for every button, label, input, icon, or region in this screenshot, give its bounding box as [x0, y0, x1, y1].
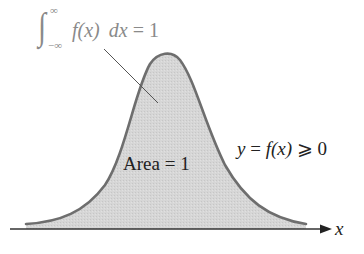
differential: dx	[109, 19, 128, 41]
integrand: f(x) dx = 1	[72, 18, 159, 42]
curve-label-eq: =	[250, 138, 261, 159]
integral-upper-limit: ∞	[50, 4, 58, 16]
integrand-argument: (x)	[78, 19, 100, 41]
curve-label-ineq: ⩾ 0	[297, 138, 327, 159]
integrand-arg-text: (x)	[78, 19, 100, 41]
integral-label: ∫ ∞ −∞ f(x) dx = 1	[38, 4, 198, 52]
area-label: Area = 1	[123, 152, 190, 176]
curve-label: y = f(x) ⩾ 0	[237, 137, 327, 161]
x-axis-arrowhead	[320, 225, 332, 234]
integral-lower-limit: −∞	[48, 39, 62, 51]
x-axis-label: x	[335, 217, 343, 241]
integral-sign: ∫	[38, 4, 46, 48]
integral-equals-one: = 1	[133, 19, 159, 41]
curve-label-y: y	[237, 138, 245, 159]
curve-label-arg: (x)	[271, 138, 292, 159]
